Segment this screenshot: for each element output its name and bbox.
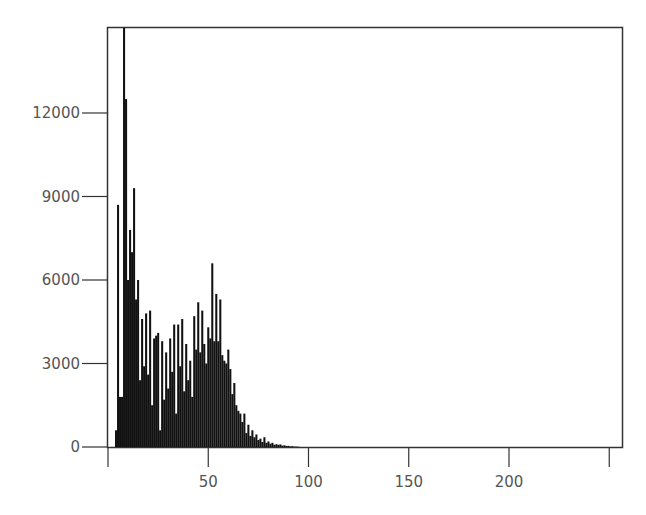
y-tick-label: 3000	[42, 355, 80, 373]
histogram-bars	[115, 28, 300, 447]
histogram-bar	[287, 446, 289, 447]
histogram-bar	[279, 445, 281, 448]
histogram-bar	[163, 400, 165, 447]
histogram-bar	[179, 366, 181, 447]
histogram-bar	[291, 446, 293, 447]
histogram-bar	[151, 405, 153, 447]
histogram-bar	[215, 294, 217, 447]
histogram-bar	[281, 446, 283, 447]
histogram-bar	[233, 383, 235, 447]
histogram-bar	[243, 414, 245, 447]
histogram-bar	[253, 437, 255, 447]
histogram-bar	[203, 344, 205, 447]
histogram-bar	[201, 311, 203, 447]
histogram-bar	[143, 366, 145, 447]
histogram-bar	[237, 411, 239, 447]
histogram-bar	[273, 445, 275, 447]
histogram-bar	[265, 443, 267, 447]
histogram-bar	[259, 439, 261, 447]
histogram-bar	[175, 414, 177, 447]
histogram-bar	[191, 397, 193, 447]
histogram-bar	[135, 299, 137, 447]
histogram-bar	[183, 391, 185, 447]
y-tick-label: 12000	[32, 104, 80, 122]
histogram-bar	[155, 336, 157, 447]
histogram-bar	[249, 436, 251, 447]
histogram-bar	[115, 430, 117, 447]
histogram-bar	[167, 389, 169, 447]
histogram-bar	[161, 341, 163, 447]
histogram-bar	[241, 422, 243, 447]
histogram-bar	[229, 369, 231, 447]
histogram-bar	[239, 414, 241, 447]
histogram-bar	[213, 341, 215, 447]
x-tick-label: 150	[394, 473, 423, 491]
histogram-bar	[257, 440, 259, 447]
histogram-bar	[147, 375, 149, 447]
histogram-bar	[261, 442, 263, 447]
histogram-bar	[137, 280, 139, 447]
histogram-bar	[185, 344, 187, 447]
histogram-bar	[221, 355, 223, 447]
histogram-bar	[285, 446, 287, 447]
histogram-bar	[169, 338, 171, 447]
histogram-bar	[251, 430, 253, 447]
histogram-bar	[165, 352, 167, 447]
y-tick-label: 0	[70, 438, 80, 456]
histogram-bar	[217, 341, 219, 447]
histogram-bar	[235, 405, 237, 447]
histogram-bar	[181, 319, 183, 447]
x-tick-label: 50	[199, 473, 218, 491]
histogram-bar	[123, 28, 125, 447]
histogram-bar	[269, 444, 271, 447]
histogram-bar	[267, 441, 269, 447]
histogram-bar	[231, 394, 233, 447]
histogram-bar	[193, 316, 195, 447]
histogram-bar	[157, 333, 159, 447]
histogram-bar	[127, 280, 129, 447]
histogram-bar	[133, 188, 135, 447]
histogram-bar	[289, 446, 291, 447]
histogram-bar	[195, 350, 197, 447]
histogram-bar	[197, 302, 199, 447]
histogram-bar	[205, 364, 207, 448]
histogram-bar	[209, 338, 211, 447]
histogram-bar	[117, 205, 119, 447]
histogram-bar	[223, 361, 225, 447]
x-tick-label: 200	[495, 473, 524, 491]
histogram-bar	[211, 263, 213, 447]
histogram-bar	[247, 425, 249, 447]
histogram-bar	[119, 397, 121, 447]
histogram-bar	[139, 380, 141, 447]
histogram-bar	[277, 445, 279, 447]
histogram-bar	[129, 230, 131, 447]
plot-frame	[108, 28, 623, 448]
y-tick-label: 6000	[42, 271, 80, 289]
histogram-bar	[271, 443, 273, 447]
histogram-bar	[149, 311, 151, 447]
histogram-bar	[245, 433, 247, 447]
histogram-bar	[199, 352, 201, 447]
histogram-bar	[145, 313, 147, 447]
histogram-bar	[187, 380, 189, 447]
histogram-bar	[255, 434, 257, 447]
x-tick-label: 100	[294, 473, 323, 491]
histogram-bar	[121, 397, 123, 447]
histogram-bar	[275, 444, 277, 447]
histogram-bar	[207, 327, 209, 447]
histogram-bar	[219, 299, 221, 447]
y-tick-label: 9000	[42, 188, 80, 206]
y-axis: 030006000900012000	[32, 104, 108, 456]
x-axis: 50100150200	[108, 448, 609, 491]
histogram-bar	[177, 325, 179, 447]
histogram-bar	[173, 325, 175, 447]
histogram-bar	[263, 437, 265, 447]
histogram-bar	[141, 319, 143, 447]
histogram-bar	[283, 445, 285, 447]
histogram-chart: 030006000900012000 50100150200	[0, 0, 646, 515]
histogram-bar	[227, 350, 229, 447]
histogram-bar	[125, 99, 127, 447]
histogram-bar	[171, 372, 173, 447]
histogram-bar	[159, 430, 161, 447]
histogram-bar	[189, 361, 191, 447]
